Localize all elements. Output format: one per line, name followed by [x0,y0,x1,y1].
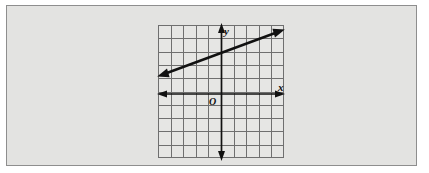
coordinate-grid-svg [152,20,290,164]
origin-label: O [209,97,216,107]
coordinate-plane: y x O [152,20,290,164]
y-axis-label: y [224,26,229,37]
figure-frame: y x O [6,5,417,166]
figure-root: y x O [0,0,429,173]
x-axis-label: x [278,82,284,93]
